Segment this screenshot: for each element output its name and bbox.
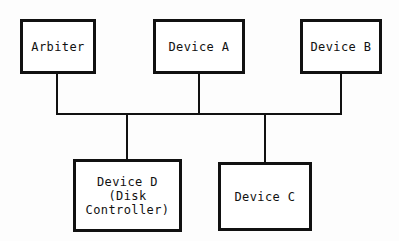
node-arbiter-label: Arbiter [31, 40, 84, 54]
wire-bus-spine [56, 113, 342, 115]
node-device-d-label: Device D (Disk Controller) [86, 175, 170, 217]
node-device-b[interactable]: Device B [300, 19, 382, 74]
wire-device-a-drop [198, 73, 200, 114]
wire-device-b-drop [340, 73, 342, 114]
wire-arbiter-drop [56, 73, 58, 114]
node-device-c[interactable]: Device C [218, 162, 312, 231]
wire-device-d-drop [126, 113, 128, 160]
node-device-c-label: Device C [235, 190, 296, 204]
node-arbiter[interactable]: Arbiter [20, 19, 96, 74]
bus-topology-diagram: Arbiter Device A Device B Device D (Disk… [0, 0, 399, 241]
node-device-d[interactable]: Device D (Disk Controller) [73, 159, 182, 232]
node-device-b-label: Device B [311, 40, 372, 54]
node-device-a[interactable]: Device A [153, 19, 245, 74]
wire-device-c-drop [264, 113, 266, 163]
node-device-a-label: Device A [169, 40, 230, 54]
